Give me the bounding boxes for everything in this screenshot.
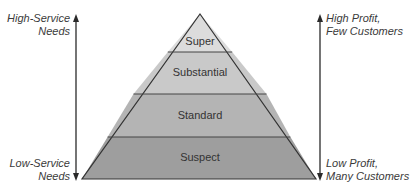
- label-line: High-Service: [0, 12, 70, 25]
- label-line: Needs: [0, 170, 70, 183]
- right-double-arrow-icon: [317, 14, 323, 181]
- tier-label-suspect: Suspect: [140, 151, 260, 163]
- label-line: Many Customers: [326, 170, 413, 183]
- high-service-needs-label: High-Service Needs: [0, 12, 70, 38]
- tier-label-standard: Standard: [140, 109, 260, 121]
- tier-label-super: Super: [140, 35, 260, 47]
- label-line: Low Profit,: [326, 157, 413, 170]
- label-line: Needs: [0, 25, 70, 38]
- high-profit-label: High Profit, Few Customers: [326, 12, 413, 38]
- low-service-needs-label: Low-Service Needs: [0, 157, 70, 183]
- tier-label-substantial: Substantial: [140, 66, 260, 78]
- label-line: Low-Service: [0, 157, 70, 170]
- low-profit-label: Low Profit, Many Customers: [326, 157, 413, 183]
- left-double-arrow-icon: [73, 14, 79, 181]
- label-line: Few Customers: [326, 25, 413, 38]
- label-line: High Profit,: [326, 12, 413, 25]
